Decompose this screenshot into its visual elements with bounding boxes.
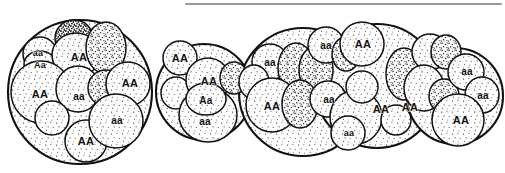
genotype-label: AA: [172, 52, 189, 64]
genotype-label: aa: [111, 115, 123, 126]
genotype-label: aa: [461, 66, 473, 77]
genotype-label: aa: [344, 128, 355, 138]
figure-canvas: aaAaAAAAaaAAaaAAAAAAAaaaaaAAaaaaAAaaAAAA…: [0, 0, 505, 173]
genotype-label: AA: [355, 38, 372, 50]
genotype-label: aa: [320, 40, 332, 51]
cell-circle: [35, 101, 69, 135]
genotype-label: AA: [78, 135, 95, 147]
genotype-label: AA: [264, 100, 281, 112]
cell-circle: [346, 71, 378, 103]
genotype-label: aa: [73, 91, 85, 102]
genotype-label: AA: [122, 77, 139, 89]
genotype-label: AA: [373, 103, 390, 115]
genotype-label: aa: [33, 48, 44, 58]
genotype-label: AA: [71, 51, 88, 63]
genotype-label: Aa: [199, 95, 213, 106]
genotype-label: aa: [199, 116, 211, 127]
genotype-label: AA: [402, 101, 419, 113]
genotype-label: Aa: [34, 60, 47, 70]
genotype-label: aa: [477, 90, 489, 101]
genotype-label: AA: [453, 114, 470, 126]
genotype-populations-figure: aaAaAAAAaaAAaaAAAAAAAaaaaaAAaaaaAAaaAAAA…: [0, 0, 505, 173]
genotype-label: aa: [323, 94, 335, 105]
genotype-label: AA: [201, 75, 218, 87]
genotype-label: aa: [264, 57, 276, 68]
genotype-label: AA: [32, 88, 49, 100]
